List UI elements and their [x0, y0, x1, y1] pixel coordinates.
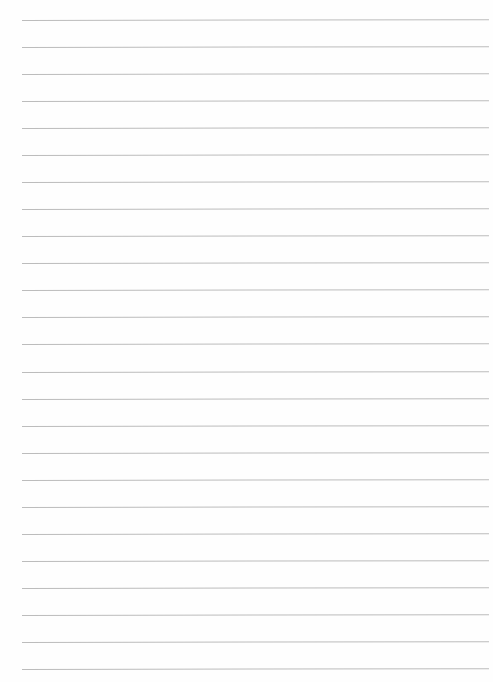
- ruled-line: [22, 73, 489, 75]
- ruled-line: [22, 452, 489, 454]
- ruled-line: [22, 506, 489, 508]
- ruled-line: [22, 127, 489, 129]
- ruled-line: [22, 560, 489, 562]
- ruled-line: [22, 425, 489, 427]
- lined-paper-page: [0, 0, 493, 682]
- ruled-line: [22, 343, 489, 345]
- ruled-line: [22, 641, 489, 643]
- ruled-line: [22, 316, 489, 318]
- ruled-line: [22, 533, 489, 535]
- ruled-line: [22, 100, 489, 102]
- ruled-line: [22, 181, 489, 183]
- ruled-line: [22, 398, 489, 400]
- ruled-line: [22, 587, 489, 589]
- ruled-line: [22, 479, 489, 481]
- ruled-line: [22, 46, 489, 48]
- ruled-line: [22, 262, 489, 264]
- ruled-line: [22, 371, 489, 373]
- ruled-line: [22, 154, 489, 156]
- ruled-line: [22, 289, 489, 291]
- ruled-line: [22, 19, 489, 21]
- ruled-line: [22, 235, 489, 237]
- ruled-line: [22, 668, 489, 670]
- ruled-line: [22, 614, 489, 616]
- ruled-line: [22, 208, 489, 210]
